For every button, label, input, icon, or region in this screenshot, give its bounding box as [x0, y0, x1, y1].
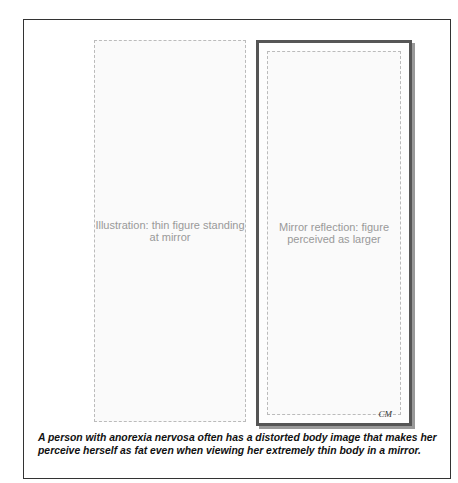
illustration: Illustration: thin figure standing at mi… — [34, 30, 440, 425]
caption-line-2: perceive herself as fat even when viewin… — [38, 444, 438, 457]
figure-reflection-label: Mirror reflection: figure perceived as l… — [268, 221, 400, 245]
figure-reflection: Mirror reflection: figure perceived as l… — [267, 51, 401, 415]
figure-person-label: Illustration: thin figure standing at mi… — [95, 219, 245, 243]
mirror: Mirror reflection: figure perceived as l… — [256, 40, 412, 426]
figure-frame: Illustration: thin figure standing at mi… — [23, 19, 451, 479]
caption: A person with anorexia nervosa often has… — [38, 431, 438, 457]
figure-person: Illustration: thin figure standing at mi… — [94, 40, 246, 422]
caption-line-1: A person with anorexia nervosa often has… — [38, 431, 438, 444]
artist-signature: CM — [379, 409, 393, 419]
